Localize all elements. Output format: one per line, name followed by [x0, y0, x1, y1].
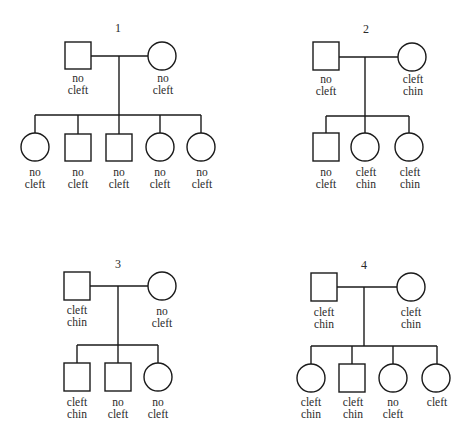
pedigree-diagram: 1 no cleft no cleft no cleft no cleft no…	[0, 0, 473, 441]
mother-label-line1: no	[157, 72, 169, 84]
child-label-line1: no	[113, 166, 125, 178]
male-square-icon	[311, 273, 337, 301]
female-circle-icon	[351, 133, 379, 161]
child-label-line1: no	[72, 166, 84, 178]
child-label-line2: chin	[67, 408, 87, 420]
female-circle-icon	[21, 133, 49, 161]
father-label-line1: no	[320, 73, 332, 85]
pedigree-number: 4	[361, 258, 367, 272]
mother-label-line2: chin	[403, 85, 423, 97]
child-label-line2: cleft	[383, 408, 404, 420]
male-square-icon	[313, 133, 339, 161]
child-label-line2: cleft	[25, 178, 46, 190]
female-circle-icon	[379, 364, 407, 392]
pedigree-number: 1	[115, 21, 121, 35]
mother-label-line2: cleft	[152, 317, 173, 329]
female-circle-icon	[148, 42, 176, 70]
child-label-line1: no	[196, 166, 208, 178]
male-square-icon	[339, 364, 365, 392]
female-circle-icon	[187, 133, 215, 161]
child-label-line2: chin	[400, 178, 420, 190]
child-label-line2: chin	[301, 408, 321, 420]
female-circle-icon	[144, 363, 172, 391]
female-circle-icon	[398, 43, 426, 71]
child-label-line2: cleft	[68, 178, 89, 190]
mother-label-line2: chin	[401, 318, 421, 330]
mother-label-line1: no	[156, 305, 168, 317]
child-label-line1: cleft	[356, 166, 377, 178]
father-label-line1: cleft	[67, 304, 88, 316]
child-label-line2: cleft	[148, 408, 169, 420]
male-square-icon	[64, 272, 90, 300]
female-circle-icon	[397, 273, 425, 301]
child-label-line2: cleft	[108, 408, 129, 420]
father-label-line2: cleft	[68, 84, 89, 96]
father-label-line1: no	[72, 72, 84, 84]
child-label-line1: cleft	[301, 396, 322, 408]
pedigree-3: 3 cleft chin no cleft cleft chin no clef…	[64, 257, 176, 420]
pedigree-1: 1 no cleft no cleft no cleft no cleft no…	[21, 21, 215, 190]
female-circle-icon	[146, 133, 174, 161]
child-label-line2: cleft	[192, 178, 213, 190]
female-circle-icon	[148, 272, 176, 300]
child-label-line1: no	[112, 396, 124, 408]
child-label-line1: cleft	[343, 396, 364, 408]
father-label-line2: cleft	[316, 85, 337, 97]
male-square-icon	[106, 134, 132, 161]
pedigree-number: 3	[115, 257, 121, 271]
pedigree-4: 4 cleft chin cleft chin cleft chin cleft…	[297, 258, 450, 420]
male-square-icon	[105, 363, 131, 391]
father-label-line1: cleft	[314, 306, 335, 318]
child-label-line1: no	[320, 166, 332, 178]
child-label-line2: cleft	[150, 178, 171, 190]
father-label-line2: chin	[67, 316, 87, 328]
mother-label-line1: cleft	[403, 73, 424, 85]
pedigree-2: 2 no cleft cleft chin no cleft cleft chi…	[313, 22, 426, 190]
mother-label-line1: cleft	[401, 306, 422, 318]
female-circle-icon	[422, 364, 450, 392]
child-label-line1: cleft	[400, 166, 421, 178]
male-square-icon	[65, 134, 91, 161]
father-label-line2: chin	[314, 318, 334, 330]
female-circle-icon	[297, 364, 325, 392]
male-square-icon	[64, 363, 90, 391]
child-label-line2: chin	[343, 408, 363, 420]
child-label-line2: cleft	[316, 178, 337, 190]
male-square-icon	[65, 42, 91, 69]
child-label-line1: no	[387, 396, 399, 408]
mother-label-line2: cleft	[153, 84, 174, 96]
child-label-line2: chin	[356, 178, 376, 190]
child-label-line1: cleft	[427, 396, 448, 408]
child-label-line1: no	[152, 396, 164, 408]
child-label-line2: cleft	[109, 178, 130, 190]
female-circle-icon	[395, 133, 423, 161]
child-label-line1: no	[154, 166, 166, 178]
child-label-line1: no	[29, 166, 41, 178]
male-square-icon	[313, 42, 339, 70]
pedigree-number: 2	[363, 22, 369, 36]
child-label-line1: cleft	[67, 396, 88, 408]
